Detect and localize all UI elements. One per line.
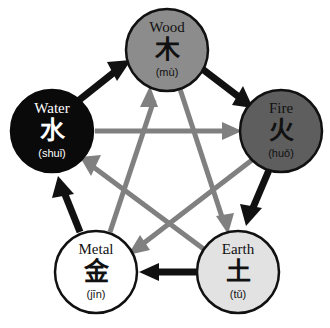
node-water-name: Water: [34, 100, 69, 116]
node-metal-hanzi: 金: [83, 257, 110, 286]
node-fire-pinyin: (huǒ): [268, 147, 294, 159]
node-wood-pinyin: (mù): [156, 66, 179, 78]
node-earth[interactable]: Earth 土 (tǔ): [197, 231, 279, 313]
edge-earth-to-metal: [139, 263, 196, 281]
edge-fire-to-earth-arrowhead: [240, 204, 262, 226]
edge-wood-to-earth: [180, 89, 234, 234]
edge-metal-to-water-line: [64, 192, 80, 232]
overcoming-cycle-group: [80, 86, 252, 255]
wuxing-svg-canvas: Wood 木 (mù) Fire 火 (huǒ) Earth 土 (tǔ) Me…: [0, 0, 330, 328]
edge-water-to-wood: [78, 60, 131, 101]
node-wood-hanzi: 木: [154, 35, 180, 64]
node-water[interactable]: Water 水 (shuǐ): [11, 90, 93, 172]
edge-earth-to-metal-arrowhead: [139, 263, 159, 281]
node-earth-pinyin: (tǔ): [230, 288, 247, 300]
node-earth-hanzi: 土: [226, 257, 251, 286]
node-metal-pinyin: (jīn): [87, 288, 106, 300]
wuxing-diagram: Wood 木 (mù) Fire 火 (huǒ) Earth 土 (tǔ) Me…: [0, 0, 330, 328]
node-metal[interactable]: Metal 金 (jīn): [55, 231, 137, 313]
edge-water-to-wood-line: [78, 70, 117, 101]
node-wood-name: Wood: [149, 19, 185, 35]
node-fire-name: Fire: [269, 100, 294, 116]
edge-metal-to-water: [52, 176, 80, 232]
edge-water-to-fire: [95, 122, 242, 140]
node-wood[interactable]: Wood 木 (mù): [126, 9, 208, 91]
edge-metal-to-wood-line: [110, 100, 154, 232]
node-metal-name: Metal: [79, 241, 114, 257]
edge-wood-to-fire-line: [201, 68, 239, 97]
edge-wood-to-fire: [201, 68, 253, 108]
edge-fire-to-earth-line: [252, 170, 269, 210]
edge-fire-to-earth: [240, 170, 269, 226]
node-fire[interactable]: Fire 火 (huǒ): [240, 90, 322, 172]
node-water-hanzi: 水: [40, 116, 66, 145]
node-water-pinyin: (shuǐ): [38, 147, 66, 159]
node-earth-name: Earth: [222, 241, 255, 257]
node-fire-hanzi: 火: [269, 116, 294, 145]
edge-metal-to-water-arrowhead: [52, 176, 74, 198]
